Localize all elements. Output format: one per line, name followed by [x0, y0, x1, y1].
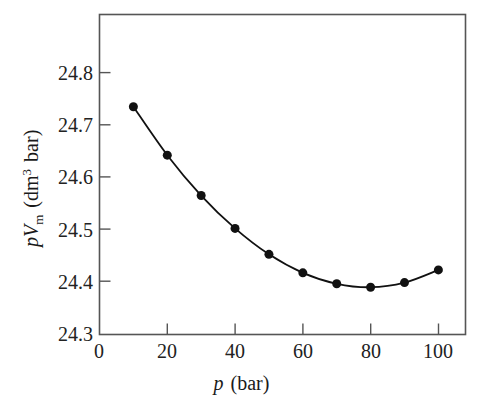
x-axis-title: p(bar) [0, 372, 483, 395]
x-axis-symbol: p [214, 372, 224, 394]
data-point [366, 283, 375, 292]
y-axis-unit-exponent: 3 [19, 169, 34, 176]
x-tick-label-80: 80 [351, 340, 391, 363]
data-point [400, 278, 409, 287]
y-axis-symbol-p: p [20, 237, 42, 247]
y-axis-unit-close: ) [20, 130, 42, 137]
y-axis-title: pVm(dm3bar) [19, 73, 48, 303]
data-point [264, 250, 273, 259]
x-tick-label-0: 0 [79, 340, 119, 363]
x-axis-unit: bar [237, 372, 263, 394]
y-axis-unit-dm: dm [20, 175, 42, 201]
x-axis-unit-close: ) [263, 372, 270, 394]
data-point [434, 265, 443, 274]
x-tick-label-40: 40 [215, 340, 255, 363]
data-point [332, 279, 341, 288]
x-tick-label-100: 100 [414, 340, 462, 363]
chart-page: 24.8 24.7 24.6 24.5 24.4 24.3 0 20 40 60… [0, 0, 483, 412]
x-tick-label-20: 20 [147, 340, 187, 363]
y-axis-unit-open: ( [20, 201, 42, 208]
y-axis-unit-bar: bar [20, 136, 42, 162]
data-point [298, 268, 307, 277]
data-point [197, 191, 206, 200]
y-axis-symbol-v-subscript: m [31, 215, 46, 225]
data-point [231, 224, 240, 233]
data-point [163, 151, 172, 160]
y-axis-symbol-v: V [20, 225, 42, 237]
x-tick-label-60: 60 [283, 340, 323, 363]
data-point [129, 102, 138, 111]
